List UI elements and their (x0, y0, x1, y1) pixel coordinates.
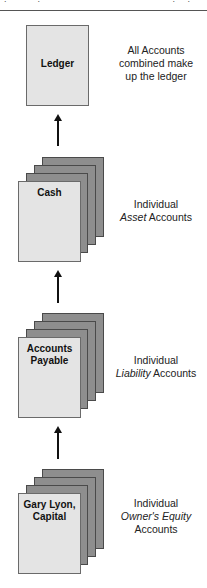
desc-line: Individual (108, 198, 204, 211)
ledger-description: All Accounts combined make up the ledger (108, 44, 204, 83)
cash-card-label: Cash (19, 187, 80, 199)
equity-description: Individual Owner's Equity Accounts (108, 497, 204, 536)
desc-line: Asset Accounts (108, 211, 204, 224)
desc-line: Accounts (108, 523, 204, 536)
desc-line: up the ledger (108, 70, 204, 83)
cash-card: Cash (18, 181, 81, 262)
accounts-payable-card: Accounts Payable (18, 337, 81, 418)
desc-rest: Accounts (151, 367, 197, 379)
desc-italic: Liability (116, 367, 151, 379)
desc-italic: Owner's Equity (121, 510, 191, 522)
label-line: Payable (19, 355, 80, 367)
desc-line: All Accounts (108, 44, 204, 57)
label-line: Capital (19, 511, 80, 523)
asset-description: Individual Asset Accounts (108, 198, 204, 224)
desc-line: Liability Accounts (108, 367, 204, 380)
header-rule (0, 10, 207, 11)
ledger-card-label: Ledger (27, 58, 88, 70)
liability-description: Individual Liability Accounts (108, 354, 204, 380)
desc-line: Individual (108, 354, 204, 367)
capital-card: Gary Lyon, Capital (18, 493, 81, 574)
ledger-card: Ledger (26, 25, 89, 106)
label-line: Accounts (19, 343, 80, 355)
accounts-payable-card-label: Accounts Payable (19, 343, 80, 367)
up-arrow-icon (57, 432, 59, 459)
capital-card-label: Gary Lyon, Capital (19, 499, 80, 523)
desc-line: combined make (108, 57, 204, 70)
up-arrow-icon (57, 276, 59, 303)
desc-rest: Accounts (146, 211, 192, 223)
label-line: Gary Lyon, (19, 499, 80, 511)
desc-italic: Asset (120, 211, 146, 223)
desc-line: Individual (108, 497, 204, 510)
up-arrow-icon (57, 120, 59, 146)
desc-line: Owner's Equity (108, 510, 204, 523)
clipped-header-text: ·:· · · · :· · · · · · · · · · · · · · ·… (0, 0, 207, 4)
